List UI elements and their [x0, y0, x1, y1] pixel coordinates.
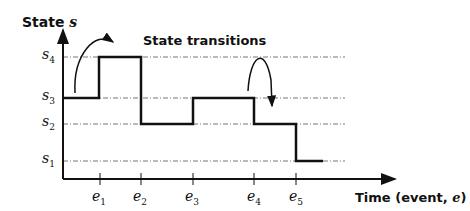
x-tick-e1: e1	[92, 188, 106, 207]
diagram-canvas	[0, 0, 470, 211]
y-tick-s4: s4	[42, 46, 55, 65]
state-transition-diagram: State s State transitions s4 s3 s2 s1 e1…	[0, 0, 470, 211]
grid-lines	[63, 57, 345, 161]
y-axis-label: State s	[22, 14, 77, 30]
y-tick-s3: s3	[42, 87, 55, 106]
axes	[63, 30, 395, 179]
x-axis-label: Time (event, e)	[355, 190, 466, 205]
transition-arrow-icon	[75, 39, 113, 93]
x-tick-e5: e5	[289, 188, 303, 207]
y-tick-s1: s1	[42, 150, 55, 169]
x-tick-e4: e4	[247, 188, 261, 207]
state-transitions-annotation: State transitions	[143, 33, 266, 48]
x-tick-e3: e3	[185, 188, 199, 207]
y-tick-s2: s2	[42, 113, 55, 132]
state-step-line	[63, 57, 323, 161]
x-tick-e2: e2	[133, 188, 147, 207]
